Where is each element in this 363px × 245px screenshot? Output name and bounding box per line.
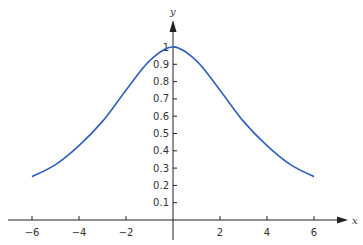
x-tick-label: 6 <box>311 227 317 238</box>
y-tick-label: 0.3 <box>153 163 169 174</box>
x-tick-label: −6 <box>25 227 40 238</box>
axes: −6−4−22460.10.20.30.40.50.60.70.80.91 <box>8 20 348 240</box>
y-tick-label: 0.7 <box>153 93 169 104</box>
x-tick-label: −2 <box>119 227 134 238</box>
y-tick-label: 0.9 <box>153 59 169 70</box>
x-axis-arrow-icon <box>337 217 348 224</box>
chart: −6−4−22460.10.20.30.40.50.60.70.80.91 x … <box>0 0 363 245</box>
y-tick-label: 0.6 <box>153 111 169 122</box>
x-tick-label: 2 <box>217 227 223 238</box>
x-tick-label: −4 <box>72 227 87 238</box>
y-tick-label: 0.8 <box>153 76 169 87</box>
y-tick-label: 0.5 <box>153 128 169 139</box>
y-tick-label: 0.2 <box>153 180 169 191</box>
y-tick-label: 0.1 <box>153 197 169 208</box>
x-tick-label: 4 <box>264 227 270 238</box>
y-axis-arrow-icon <box>170 20 177 32</box>
plot-area: −6−4−22460.10.20.30.40.50.60.70.80.91 x … <box>0 0 363 245</box>
x-axis-label: x <box>352 215 358 226</box>
y-axis-label: y <box>169 6 176 17</box>
y-tick-label: 0.4 <box>153 145 169 156</box>
